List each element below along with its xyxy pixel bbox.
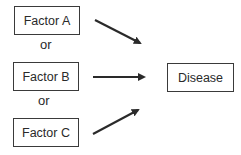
factor-c-label: Factor C [22, 126, 70, 140]
disease-label: Disease [178, 71, 223, 85]
arrow-c-to-disease [93, 110, 138, 134]
factor-b-box: Factor B [13, 62, 79, 91]
factor-a-label: Factor A [24, 14, 71, 28]
arrow-a-to-disease [95, 20, 140, 43]
or-connector-2: or [38, 93, 50, 108]
factor-b-label: Factor B [22, 70, 69, 84]
or-connector-1: or [40, 37, 52, 52]
factor-a-box: Factor A [14, 6, 80, 35]
disease-box: Disease [167, 63, 234, 92]
factor-c-box: Factor C [13, 118, 79, 147]
